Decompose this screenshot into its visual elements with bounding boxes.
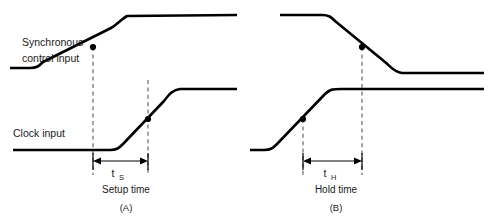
timing-diagram: t S Setup time (A) <box>0 0 494 221</box>
panel-b-dim-subscript: H <box>331 173 336 182</box>
panel-b-control-edge-marker <box>359 44 365 50</box>
diagram-canvas: t S Setup time (A) <box>0 0 494 221</box>
panel-b-dim-symbol: t <box>324 167 327 179</box>
panel-b-control-waveform <box>280 15 484 73</box>
panel-b: t H Hold time (B) <box>250 15 484 213</box>
panel-a-tag: (A) <box>120 202 133 213</box>
panel-b-clock-edge-marker <box>300 116 306 122</box>
panel-a-dim-symbol: t <box>112 167 115 179</box>
panel-a-arrowhead-right <box>140 158 148 165</box>
panel-b-dimension <box>303 153 362 170</box>
panel-b-caption: Hold time <box>315 184 358 195</box>
panel-a-caption: Setup time <box>102 184 150 195</box>
panel-b-arrowhead-left <box>303 158 311 165</box>
panel-b-tag: (B) <box>330 202 343 213</box>
panel-a-dimension <box>93 153 148 170</box>
clock-input-label: Clock input <box>13 127 65 139</box>
panel-a-control-edge-marker <box>90 44 96 50</box>
panel-a-dim-subscript: S <box>119 173 124 182</box>
panel-b-clock-waveform <box>250 89 484 150</box>
panel-a-arrowhead-left <box>93 158 101 165</box>
control-input-label-line2: control input <box>22 52 79 64</box>
panel-b-arrowhead-right <box>354 158 362 165</box>
panel-a-clock-waveform <box>13 89 237 150</box>
control-input-label-line1: Synchronous <box>22 36 83 48</box>
panel-a-clock-edge-marker <box>145 116 151 122</box>
